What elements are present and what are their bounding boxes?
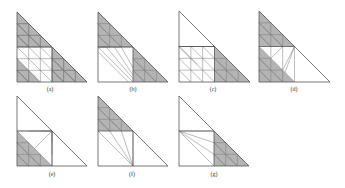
panel-label-d: (d) (291, 86, 298, 92)
panel-label-e: (e) (49, 171, 56, 177)
panel-label-f: (f) (129, 171, 135, 177)
panel-label-g: (g) (211, 171, 218, 177)
panel-label-b: (b) (130, 86, 137, 92)
panel-c (179, 11, 250, 82)
panel-d (259, 11, 330, 82)
panel-b (98, 12, 168, 82)
panel-label-a: (a) (47, 86, 54, 92)
panel-g (179, 96, 249, 166)
panel-e (17, 96, 87, 166)
panel-f (98, 96, 168, 166)
panel-a (17, 12, 87, 82)
triangle-refinement-figure (0, 0, 345, 188)
panel-label-c: (c) (210, 86, 217, 92)
